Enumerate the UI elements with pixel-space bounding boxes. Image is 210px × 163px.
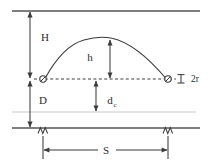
height-arrow-down-icon [27,73,32,79]
height-arrow-up-icon [27,12,32,18]
span-arrow-right-icon [162,148,168,153]
clearance-arrow-up-icon [27,81,32,87]
label-mid-clearance-base: d [107,94,113,106]
mid-clearance-arrow-up-icon [94,80,99,86]
diagram-canvas: H h D d c S 2r [0,0,210,163]
cable-sag-diagram: H h D d c S 2r [0,0,210,163]
label-cable-diameter: 2r [191,74,200,84]
label-ground-clearance: D [39,94,47,106]
sag-arrow-down-icon [108,73,113,79]
cable-curve [45,37,166,78]
label-mid-clearance: d c [107,94,116,109]
label-total-height: H [41,31,49,43]
label-sag: h [87,51,93,63]
label-mid-clearance-subscript: c [113,101,116,109]
clearance-arrow-down-icon [27,122,32,128]
mid-clearance-arrow-down-icon [94,106,99,112]
sag-arrow-up-icon [108,40,113,46]
label-span: S [103,144,109,156]
span-arrow-left-icon [43,148,49,153]
